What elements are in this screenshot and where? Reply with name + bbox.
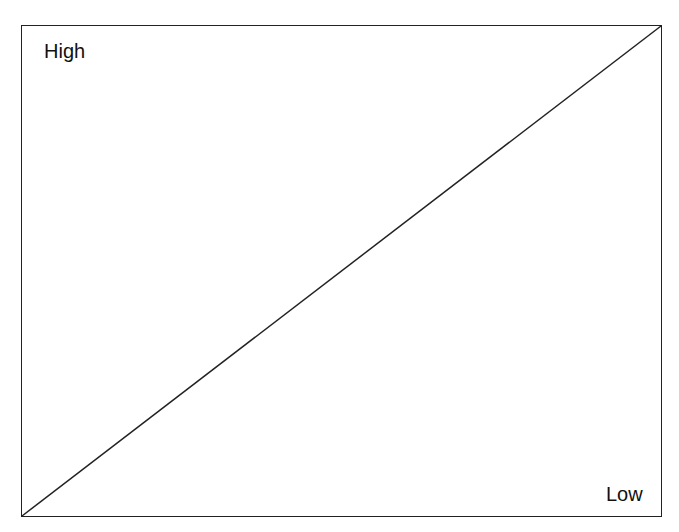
diagonal-line (0, 0, 679, 532)
low-label: Low (606, 483, 643, 506)
high-label: High (44, 40, 85, 63)
